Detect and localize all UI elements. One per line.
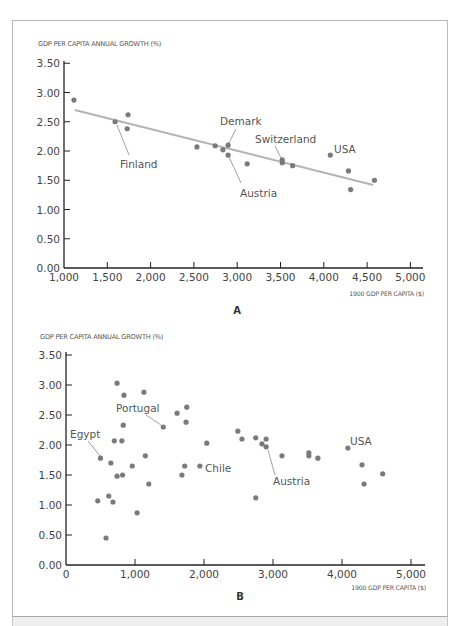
y-tick-label: 2.00 [39,439,62,451]
x-tick-label: 4,000 [309,271,339,283]
y-tick-label: 3.50 [39,349,62,361]
data-point [179,472,184,477]
label-chile: Chile [205,462,231,474]
y-tick-label: 2.50 [39,409,62,421]
data-point [359,462,364,467]
data-point [372,178,377,183]
x-tick-label: 3,500 [265,271,295,283]
y-tick-label: 1.00 [39,499,62,511]
data-point [280,160,285,165]
chart-a-x-axis-title: 1900 GDP PER CAPITA ($) [349,290,424,297]
label-austria-a: Austria [240,187,277,199]
leader-switzerland [275,146,281,158]
y-tick-label: 3.50 [37,57,60,69]
panel-label-a: A [233,305,241,316]
chart-a-y-axis-title: GDP PER CAPITA ANNUAL GROWTH (%) [38,40,161,48]
chart-b: GDP PER CAPITA ANNUAL GROWTH (%) 0.000.5… [39,333,426,602]
data-point [220,147,225,152]
chart-b-y-axis-title: GDP PER CAPITA ANNUAL GROWTH (%) [40,333,163,341]
data-point [95,498,100,503]
x-tick-label: 2,000 [136,271,166,283]
data-point [125,112,130,117]
data-point [141,390,146,395]
data-point [235,429,240,434]
x-tick-label: 5,000 [396,568,426,580]
data-point [103,535,108,540]
label-egypt: Egypt [70,428,100,440]
x-tick-label: 1,500 [92,271,122,283]
data-point [183,420,188,425]
panel-label-b: B [236,591,244,602]
data-point [348,187,353,192]
data-point [290,163,295,168]
data-point-demark [226,143,231,148]
x-tick-label: 1,000 [49,271,79,283]
data-point [380,471,385,476]
data-point-usa [328,152,333,157]
data-point [121,423,126,428]
x-tick-label: 4,000 [327,568,357,580]
x-tick-label: 2,500 [179,271,209,283]
leader-austria-a [229,157,241,183]
data-point [146,481,151,486]
data-point-finland [112,119,117,124]
y-tick-label: 2.50 [37,116,60,128]
y-tick-label: 1.50 [39,469,62,481]
leader-portugal [146,415,161,425]
chart-b-x-ticks: 01,0002,0003,0004,0005,000 [63,559,426,580]
y-tick-label: 0.50 [39,529,62,541]
chart-b-y-ticks: 0.000.501.001.502.002.503.003.50 [39,349,72,571]
y-tick-label: 3.00 [37,87,60,99]
data-point [253,495,258,500]
data-point [245,161,250,166]
label-usa-a: USA [334,143,357,155]
data-point [182,463,187,468]
chart-b-x-axis-title: 1900 GDP PER CAPITA ($) [351,584,426,591]
data-point [361,481,366,486]
leader-austria-b [268,450,275,475]
data-point [264,436,269,441]
data-point [125,126,130,131]
label-finland: Finland [120,158,158,170]
data-point [143,453,148,458]
data-point [184,405,189,410]
chart-a-points [71,98,377,193]
data-point [194,144,199,149]
y-tick-label: 2.00 [37,145,60,157]
y-tick-label: 3.00 [39,379,62,391]
y-tick-label: 1.00 [37,204,60,216]
leader-denmark [229,129,236,143]
data-point [253,435,258,440]
data-point [174,411,179,416]
data-point-austria [226,152,231,157]
data-point [121,393,126,398]
label-switzerland: Switzerland [255,133,316,145]
data-point [110,499,115,504]
chart-a: GDP PER CAPITA ANNUAL GROWTH (%) 0.000.5… [37,40,426,316]
x-tick-label: 3,000 [222,271,252,283]
data-point [134,510,139,515]
data-point [346,168,351,173]
data-point [213,143,218,148]
data-point [239,436,244,441]
data-point [315,456,320,461]
label-usa-b: USA [350,435,373,447]
data-point [112,438,117,443]
label-austria-b: Austria [273,475,310,487]
label-portugal: Portugal [116,402,160,414]
data-point [130,463,135,468]
y-tick-label: 1.50 [37,174,60,186]
data-point [279,453,284,458]
x-tick-label: 2,000 [189,568,219,580]
x-tick-label: 1,000 [120,568,150,580]
data-point [108,460,113,465]
data-point [114,381,119,386]
x-tick-label: 0 [63,568,70,580]
y-tick-label: 0.50 [37,233,60,245]
data-point-portugal [161,424,166,429]
data-point [106,493,111,498]
data-point-egypt [98,456,103,461]
x-tick-label: 5,000 [395,271,425,283]
data-point [306,453,311,458]
data-point [120,472,125,477]
